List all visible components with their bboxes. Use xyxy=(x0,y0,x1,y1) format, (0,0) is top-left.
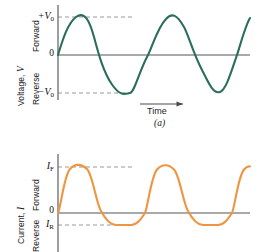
current-axis-title: Current, I xyxy=(16,207,26,244)
voltage-tick-minus-v0: −V0 xyxy=(26,86,54,99)
time-arrow-head xyxy=(177,102,184,107)
current-tick-if-sub: F xyxy=(50,165,54,173)
current-tick-ir-sub: R xyxy=(49,223,54,231)
voltage-axis-title: Voltage, V xyxy=(16,66,26,106)
current-axis-title-symbol: I xyxy=(16,207,26,210)
voltage-tick-minus-v0-sub: 0 xyxy=(51,91,55,99)
voltage-tick-plus-v0-sub: 0 xyxy=(51,15,55,23)
panel-a-caption: (a) xyxy=(154,118,165,128)
current-axis-title-text: Current, xyxy=(16,212,26,244)
voltage-panel: Voltage, V Forward Reverse +V0 0 −V0 Tim… xyxy=(0,0,264,126)
current-tick-ir: IR xyxy=(26,218,54,231)
voltage-tick-zero: 0 xyxy=(26,48,54,58)
time-axis-label: Time xyxy=(147,106,167,116)
voltage-tick-plus-v0: +V0 xyxy=(26,10,54,23)
voltage-tick-minus-v0-main: −V xyxy=(38,86,51,97)
voltage-axis-title-text: Voltage, xyxy=(16,74,26,106)
voltage-axis-title-symbol: V xyxy=(16,66,26,72)
voltage-tick-plus-v0-main: +V xyxy=(38,10,51,21)
figure-root: Voltage, V Forward Reverse +V0 0 −V0 Tim… xyxy=(0,0,264,252)
current-panel: Current, I Forward Reverse IF 0 IR xyxy=(0,140,264,252)
current-waveform-curve xyxy=(58,165,250,225)
current-tick-if: IF xyxy=(26,160,54,173)
current-tick-zero: 0 xyxy=(26,205,54,215)
